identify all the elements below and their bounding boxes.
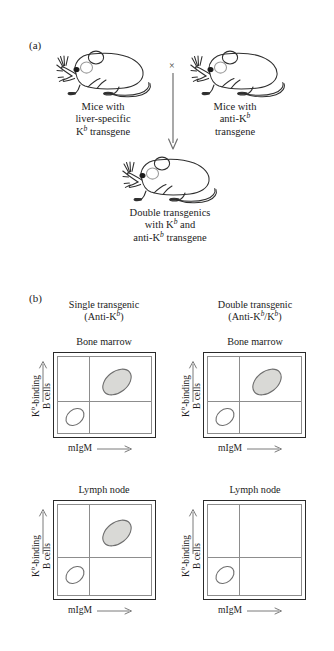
y-axis-line1-pre: K: [181, 410, 191, 417]
population-blob-igm-negative-kb-negative: [211, 404, 239, 430]
plot-inner-frame: [57, 356, 152, 434]
offspring-line2-post: and: [177, 219, 195, 230]
column-title-double-transgenic: Double transgenic (Anti-Kb/Kb): [192, 299, 318, 323]
panel-b-letter: (b): [29, 292, 42, 304]
plot-inner-frame: [57, 504, 152, 596]
y-axis-line1-sup: b: [179, 407, 186, 410]
col1-title-line1: Single transgenic: [69, 299, 139, 310]
quadrant-divider-horizontal: [58, 401, 151, 402]
y-axis-arrow-plot3: [38, 508, 48, 556]
x-axis-arrow-plot2: [247, 445, 283, 453]
y-axis-line1-sup: b: [179, 567, 186, 570]
offspring-line1: Double transgenics: [130, 207, 211, 218]
cross-down-arrow: [166, 73, 180, 151]
quadrant-divider-horizontal: [208, 401, 301, 402]
tissue-label-lymph-node-right: Lymph node: [192, 484, 318, 495]
col2-title-line2-post: ): [278, 311, 281, 322]
parent-right-line2-sup: b: [247, 111, 251, 120]
y-axis-line1-sup: b: [29, 567, 36, 570]
mouse-illustration-right: [190, 44, 286, 102]
y-axis-arrow-plot2: [188, 360, 198, 404]
x-axis-text-plot1: mIgM: [68, 442, 92, 453]
x-axis-arrow-plot4: [247, 607, 283, 615]
col1-title-line2-pre: (Anti-K: [84, 311, 116, 322]
plot-lymph-node-single-transgenic: [53, 500, 156, 600]
population-blob-igm-negative-kb-negative: [211, 561, 239, 589]
population-blob-kb-binding-igm-positive: [96, 513, 138, 553]
parent-right-line3: transgene: [215, 126, 255, 137]
y-axis-line1-pre: K: [31, 570, 41, 577]
y-axis-line1-pre: K: [181, 570, 191, 577]
x-axis-arrow-plot3: [97, 607, 133, 615]
x-axis-arrow-plot1: [97, 445, 133, 453]
plot-inner-frame: [207, 504, 302, 596]
col2-title-line1: Double transgenic: [218, 299, 292, 310]
x-axis-label-plot1: mIgM: [68, 442, 133, 453]
column-title-single-transgenic: Single transgenic (Anti-Kb): [44, 299, 164, 323]
x-axis-label-plot3: mIgM: [68, 604, 133, 615]
parent-left-line1: Mice with: [82, 101, 125, 112]
plot-bone-marrow-double-transgenic: [203, 352, 306, 438]
population-blob-kb-binding-igm-positive: [246, 363, 288, 401]
x-axis-text-plot4: mIgM: [218, 604, 242, 615]
population-blob-igm-negative-kb-negative: [61, 404, 89, 430]
figure-root: (a): [0, 0, 334, 651]
panel-a-letter: (a): [29, 39, 41, 51]
plot-bone-marrow-single-transgenic: [53, 352, 156, 438]
offspring-label: Double transgenics with Kb and anti-Kb t…: [85, 207, 255, 244]
tissue-label-bone-marrow-right: Bone marrow: [192, 336, 318, 347]
col1-title-line2-post: ): [120, 311, 123, 322]
population-blob-kb-binding-igm-positive: [96, 363, 138, 401]
offspring-line3-post: transgene: [164, 232, 207, 243]
y-axis-line1-pre: K: [31, 410, 41, 417]
col2-title-line2-pre: (Anti-K: [228, 311, 260, 322]
quadrant-divider-horizontal: [58, 557, 151, 558]
plot-lymph-node-double-transgenic: [203, 500, 306, 600]
tissue-label-bone-marrow-left: Bone marrow: [44, 336, 164, 347]
parent-right-line2-pre: anti-K: [220, 113, 247, 124]
quadrant-divider-horizontal: [208, 557, 301, 558]
plot-inner-frame: [207, 356, 302, 434]
parent-right-label: Mice with anti-Kb transgene: [190, 101, 280, 138]
col2-title-line2-mid: /K: [264, 311, 274, 322]
cross-symbol: ×: [169, 60, 175, 71]
x-axis-label-plot4: mIgM: [218, 604, 283, 615]
y-axis-arrow-plot1: [38, 360, 48, 404]
offspring-line3-pre: anti-K: [133, 232, 160, 243]
parent-left-label: Mice with liver-specific Kb transgene: [58, 101, 148, 138]
mouse-illustration-left: [56, 44, 152, 102]
y-axis-arrow-plot4: [188, 508, 198, 556]
x-axis-label-plot2: mIgM: [218, 442, 283, 453]
population-blob-igm-negative-kb-negative: [61, 561, 89, 589]
x-axis-text-plot2: mIgM: [218, 442, 242, 453]
x-axis-text-plot3: mIgM: [68, 604, 92, 615]
y-axis-line1-sup: b: [29, 407, 36, 410]
parent-left-line3-post: transgene: [87, 126, 130, 137]
mouse-illustration-offspring: [122, 150, 218, 208]
tissue-label-lymph-node-left: Lymph node: [44, 484, 164, 495]
